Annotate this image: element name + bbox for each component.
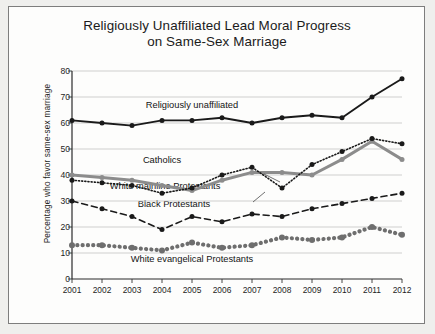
chart-inner: Religiously Unaffiliated Lead Moral Prog… bbox=[17, 14, 417, 316]
data-point bbox=[220, 115, 225, 120]
data-point bbox=[310, 113, 315, 118]
chart-title-line-1: Religiously Unaffiliated Lead Moral Prog… bbox=[83, 18, 351, 33]
data-point bbox=[160, 118, 165, 123]
data-point bbox=[190, 214, 195, 219]
data-point bbox=[220, 178, 225, 183]
data-point bbox=[340, 149, 345, 154]
x-tick-2012: 2012 bbox=[380, 285, 424, 295]
data-point bbox=[279, 234, 285, 240]
data-point bbox=[99, 242, 105, 248]
data-point bbox=[100, 121, 105, 126]
series-line-0 bbox=[72, 79, 402, 126]
data-point bbox=[400, 191, 405, 196]
data-point bbox=[370, 196, 375, 201]
series-line-3 bbox=[72, 193, 402, 229]
data-point bbox=[70, 118, 75, 123]
data-point bbox=[220, 173, 225, 178]
data-point bbox=[370, 136, 375, 141]
data-point bbox=[250, 212, 255, 217]
plot-area: 01020304050607080 2001200220032004200520… bbox=[72, 71, 402, 279]
data-point bbox=[370, 95, 375, 100]
data-point bbox=[310, 162, 315, 167]
y-tick-80: 80 bbox=[30, 66, 70, 76]
chart-title-line-2: on Same-Sex Marriage bbox=[147, 34, 287, 49]
data-point bbox=[70, 173, 75, 178]
data-point bbox=[340, 157, 345, 162]
y-tick-0: 0 bbox=[30, 274, 70, 284]
data-point bbox=[160, 183, 165, 188]
y-tick-20: 20 bbox=[30, 222, 70, 232]
data-point bbox=[400, 157, 405, 162]
data-point bbox=[280, 214, 285, 219]
data-point bbox=[219, 245, 225, 251]
data-point bbox=[310, 173, 315, 178]
data-point bbox=[249, 242, 255, 248]
data-point bbox=[100, 180, 105, 185]
y-tick-10: 10 bbox=[30, 248, 70, 258]
data-point bbox=[160, 191, 165, 196]
data-point bbox=[130, 214, 135, 219]
data-point bbox=[250, 121, 255, 126]
data-point bbox=[340, 201, 345, 206]
data-point bbox=[70, 199, 75, 204]
data-point bbox=[369, 224, 375, 230]
y-tick-30: 30 bbox=[30, 196, 70, 206]
data-point bbox=[190, 118, 195, 123]
data-point bbox=[129, 245, 135, 251]
data-point bbox=[159, 247, 165, 253]
data-point bbox=[69, 242, 75, 248]
data-point bbox=[399, 232, 405, 238]
data-point bbox=[130, 123, 135, 128]
data-point bbox=[70, 178, 75, 183]
chart-figure: Religiously Unaffiliated Lead Moral Prog… bbox=[8, 6, 425, 324]
data-point bbox=[130, 178, 135, 183]
data-point bbox=[400, 76, 405, 81]
annotation-leader-line bbox=[253, 192, 265, 202]
data-point bbox=[160, 227, 165, 232]
series-line-2 bbox=[72, 139, 402, 194]
data-point bbox=[339, 234, 345, 240]
y-tick-40: 40 bbox=[30, 170, 70, 180]
data-point bbox=[309, 237, 315, 243]
data-point bbox=[280, 170, 285, 175]
data-point bbox=[250, 170, 255, 175]
data-point bbox=[190, 186, 195, 191]
data-point bbox=[310, 206, 315, 211]
y-tick-50: 50 bbox=[30, 144, 70, 154]
data-point bbox=[130, 183, 135, 188]
data-point bbox=[100, 206, 105, 211]
data-point bbox=[280, 186, 285, 191]
chart-canvas bbox=[72, 71, 402, 279]
data-point bbox=[400, 141, 405, 146]
data-point bbox=[250, 165, 255, 170]
series-line-4 bbox=[72, 227, 402, 250]
chart-title: Religiously Unaffiliated Lead Moral Prog… bbox=[17, 18, 417, 50]
y-tick-70: 70 bbox=[30, 92, 70, 102]
data-point bbox=[100, 175, 105, 180]
data-point bbox=[220, 219, 225, 224]
data-point bbox=[189, 240, 195, 246]
data-point bbox=[340, 115, 345, 120]
data-point bbox=[280, 115, 285, 120]
y-tick-60: 60 bbox=[30, 118, 70, 128]
